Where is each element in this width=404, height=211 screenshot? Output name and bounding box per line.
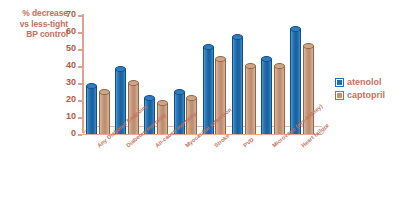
bar-body <box>245 66 256 134</box>
bar-atenolol-5 <box>232 34 243 134</box>
bar-cap <box>174 89 185 95</box>
bar-cap <box>99 89 110 95</box>
bar-atenolol-0 <box>86 83 97 134</box>
bar-body <box>86 86 97 134</box>
chart-legend: atenolol captopril <box>336 76 385 102</box>
legend-swatch-atenolol <box>336 79 343 86</box>
bar-atenolol-6 <box>261 56 272 134</box>
bar-cap <box>290 26 301 32</box>
bar-atenolol-7 <box>290 26 301 134</box>
bar-captopril-0 <box>99 89 110 135</box>
bar-captopril-1 <box>128 80 139 134</box>
bar-body <box>99 92 110 135</box>
legend-item-captopril[interactable]: captopril <box>336 89 385 102</box>
legend-item-atenolol[interactable]: atenolol <box>336 76 385 89</box>
legend-swatch-captopril <box>336 92 343 99</box>
bar-body <box>232 37 243 134</box>
legend-label-atenolol: atenolol <box>347 78 382 87</box>
bars-container <box>0 0 404 211</box>
bar-cap <box>128 80 139 86</box>
bar-cap <box>303 43 314 49</box>
bar-cap <box>245 63 256 69</box>
bar-body <box>261 59 272 134</box>
bar-captopril-5 <box>245 63 256 134</box>
bar-captopril-6 <box>274 63 285 134</box>
bar-chart: % decrease vs less-tight BP control 0102… <box>0 0 404 211</box>
legend-label-captopril: captopril <box>347 91 385 100</box>
bar-cap <box>274 63 285 69</box>
bar-body <box>274 66 285 134</box>
